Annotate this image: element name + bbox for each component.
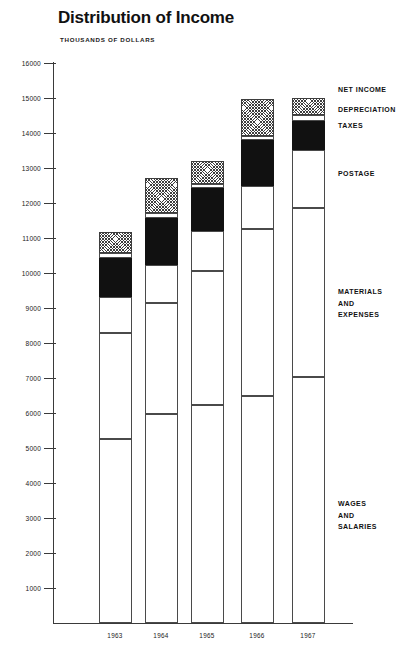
bar-segment-net-income: [145, 178, 178, 213]
bar-segment-postage: [241, 186, 274, 229]
bar-segment-net-income: [241, 99, 274, 136]
y-axis-tick: [44, 238, 56, 239]
bar-1963: [99, 232, 132, 624]
bar-segment-net-income: [191, 161, 224, 184]
bar-segment-postage: [292, 150, 325, 208]
y-axis-unit-label: THOUSANDS OF DOLLARS: [60, 36, 155, 43]
legend-item-wages-and-salaries: WAGES AND SALARIES: [338, 498, 377, 533]
y-axis-tick: [44, 98, 56, 99]
y-axis-tick-label: 6000: [0, 410, 41, 417]
bar-segment-depreciation: [191, 184, 224, 189]
bar-segment-wages-and-salaries: [241, 396, 274, 624]
page-title: Distribution of Income: [58, 8, 234, 28]
x-axis-label-1967: 1967: [292, 632, 325, 639]
y-axis-tick: [44, 553, 56, 554]
bar-1964: [145, 178, 178, 624]
y-axis-tick: [44, 343, 56, 344]
y-axis-tick-label: 3000: [0, 515, 41, 522]
bar-segment-postage: [99, 297, 132, 333]
bar-segment-materials-and-expenses: [191, 271, 224, 406]
bar-segment-postage: [191, 231, 224, 270]
legend-item-taxes: TAXES: [338, 120, 363, 132]
x-axis-label-1965: 1965: [191, 632, 224, 639]
bar-segment-materials-and-expenses: [241, 229, 274, 396]
bar-segment-depreciation: [99, 253, 132, 258]
bar-1965: [191, 161, 224, 624]
bar-segment-materials-and-expenses: [99, 333, 132, 439]
y-axis-tick: [44, 133, 56, 134]
x-axis-label-1963: 1963: [99, 632, 132, 639]
y-axis-tick-label: 5000: [0, 445, 41, 452]
y-axis-tick: [44, 168, 56, 169]
bar-segment-wages-and-salaries: [145, 414, 178, 623]
y-axis-tick-label: 16000: [0, 60, 41, 67]
y-axis-tick: [44, 413, 56, 414]
y-axis-tick-label: 9000: [0, 305, 41, 312]
y-axis-tick-label: 2000: [0, 550, 41, 557]
bar-segment-taxes: [145, 218, 178, 266]
bar-segment-wages-and-salaries: [292, 377, 325, 623]
bar-segment-net-income: [292, 98, 325, 115]
bar-segment-wages-and-salaries: [99, 439, 132, 623]
bar-segment-depreciation: [241, 136, 274, 141]
bar-segment-net-income: [99, 232, 132, 254]
bar-segment-taxes: [292, 121, 325, 150]
y-axis-tick-label: 11000: [0, 235, 41, 242]
y-axis-tick: [44, 448, 56, 449]
bar-segment-postage: [145, 265, 178, 302]
y-axis-tick-label: 15000: [0, 95, 41, 102]
legend-item-net-income: NET INCOME: [338, 84, 386, 96]
y-axis-tick-label: 1000: [0, 585, 41, 592]
bar-1967: [292, 98, 325, 623]
bar-segment-wages-and-salaries: [191, 405, 224, 623]
y-axis-tick: [44, 378, 56, 379]
y-axis-tick-label: 10000: [0, 270, 41, 277]
bar-1966: [241, 99, 274, 624]
bar-segment-materials-and-expenses: [145, 303, 178, 415]
y-axis-tick: [44, 518, 56, 519]
x-axis-label-1964: 1964: [145, 632, 178, 639]
y-axis-tick-label: 13000: [0, 165, 41, 172]
bar-segment-depreciation: [292, 115, 325, 121]
bar-segment-taxes: [99, 258, 132, 297]
y-axis-tick-label: 14000: [0, 130, 41, 137]
bar-segment-taxes: [191, 188, 224, 231]
y-axis-tick: [44, 273, 56, 274]
y-axis-tick: [44, 63, 56, 64]
x-axis-label-1966: 1966: [241, 632, 274, 639]
legend-item-materials-and-expenses: MATERIALS AND EXPENSES: [338, 286, 382, 321]
bar-segment-taxes: [241, 140, 274, 186]
y-axis-tick: [44, 588, 56, 589]
y-axis-tick-label: 8000: [0, 340, 41, 347]
legend-item-postage: POSTAGE: [338, 168, 375, 180]
y-axis-tick-label: 4000: [0, 480, 41, 487]
bar-segment-materials-and-expenses: [292, 208, 325, 378]
y-axis-tick: [44, 308, 56, 309]
bar-segment-depreciation: [145, 213, 178, 218]
y-axis-tick: [44, 483, 56, 484]
y-axis-tick: [44, 203, 56, 204]
legend-item-depreciation: DEPRECIATION: [338, 104, 396, 116]
y-axis-tick-label: 12000: [0, 200, 41, 207]
y-axis-tick-label: 7000: [0, 375, 41, 382]
